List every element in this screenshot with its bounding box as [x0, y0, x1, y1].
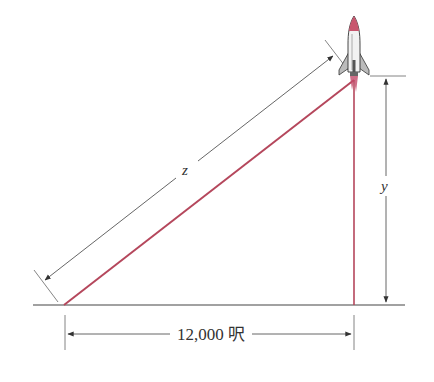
z-dimension-line-lower: [45, 178, 176, 280]
y-label: y: [379, 178, 388, 194]
base-label: 12,000 呎: [177, 325, 245, 344]
z-label: z: [181, 162, 188, 178]
line-of-sight: [64, 80, 354, 305]
z-extension-bottom: [34, 270, 58, 302]
rocket-triangle-diagram: z y 12,000 呎: [0, 0, 434, 382]
z-dimension-line-upper: [198, 56, 333, 161]
